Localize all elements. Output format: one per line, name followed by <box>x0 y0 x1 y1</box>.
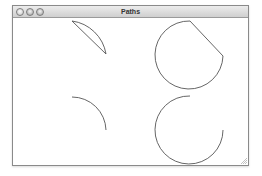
open-three-quarter-arc <box>155 96 223 164</box>
resize-grip-icon[interactable] <box>241 158 247 164</box>
drawing-canvas <box>13 18 248 165</box>
arc-wedge-circle <box>155 21 223 89</box>
window-title: Paths <box>13 6 248 17</box>
paths-drawing <box>13 18 248 166</box>
title-bar[interactable]: Paths <box>13 6 248 18</box>
arc-chord-segment <box>72 21 106 54</box>
open-quarter-arc <box>72 97 106 130</box>
app-window: Paths <box>12 5 249 166</box>
